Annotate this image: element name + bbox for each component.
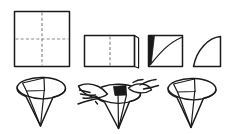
cone-center-fold-line-held <box>118 90 119 129</box>
folding-instructions-figure <box>0 0 227 134</box>
cone-shaded-interior <box>114 86 127 96</box>
diagram-container <box>0 0 227 134</box>
